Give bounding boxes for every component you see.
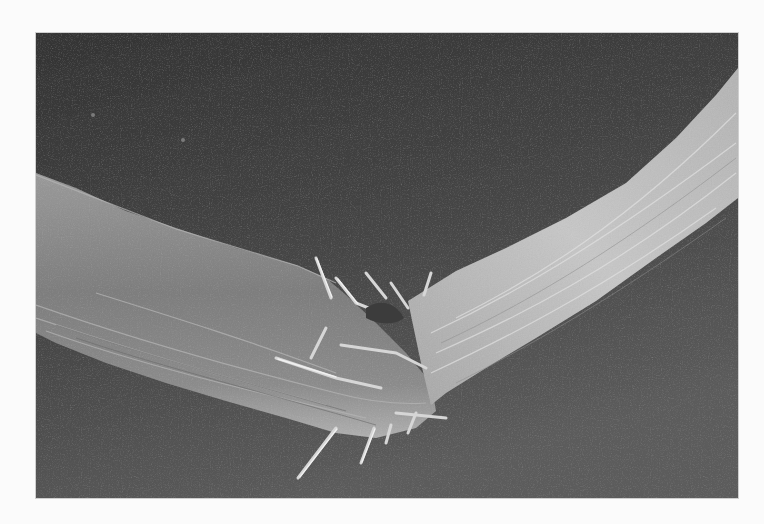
dust-speck xyxy=(181,138,185,142)
micrograph-photo xyxy=(36,33,738,498)
dust-speck xyxy=(91,113,95,117)
micrograph-svg xyxy=(36,33,738,498)
